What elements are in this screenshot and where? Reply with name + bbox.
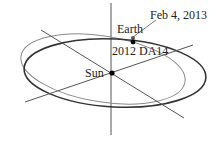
- earth-label: Earth: [117, 22, 143, 36]
- asteroid-label: 2012 DA14: [112, 44, 168, 58]
- date-label: Feb 4, 2013: [150, 8, 207, 22]
- sun-label: Sun: [85, 66, 104, 80]
- orbit-diagram: Feb 4, 2013 Earth 2012 DA14 Sun: [0, 0, 212, 145]
- earth-point: [131, 36, 135, 40]
- sun-point: [109, 70, 114, 75]
